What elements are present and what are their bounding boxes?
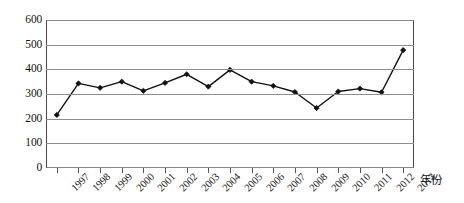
x-axis-tick-mark <box>252 168 253 173</box>
data-point-marker <box>249 79 254 84</box>
data-point-marker <box>162 80 167 85</box>
x-axis-tick-mark <box>78 168 79 173</box>
x-axis-tick-mark <box>295 168 296 173</box>
gridline <box>46 45 414 46</box>
x-axis-tick-mark <box>273 168 274 173</box>
y-axis-tick: 100 <box>0 137 42 149</box>
gridline <box>46 143 414 144</box>
data-point-marker <box>98 85 103 90</box>
x-axis-tick-mark <box>57 168 58 173</box>
gridline <box>46 94 414 95</box>
x-axis-tick-mark <box>338 168 339 173</box>
y-axis-tick-label: 500 <box>2 39 42 51</box>
data-point-marker <box>141 88 146 93</box>
x-axis-tick-mark <box>187 168 188 173</box>
y-axis-tick: 500 <box>0 39 42 51</box>
x-axis-tick-mark <box>317 168 318 173</box>
y-axis-tick: 300 <box>0 88 42 100</box>
series-line <box>57 50 403 115</box>
gridline <box>46 119 414 120</box>
x-axis-tick-mark <box>403 168 404 173</box>
y-axis-tick-label: 300 <box>2 88 42 100</box>
x-axis-tick-mark <box>360 168 361 173</box>
data-point-marker <box>119 79 124 84</box>
x-axis-tick-mark <box>230 168 231 173</box>
y-axis-tick-label: 600 <box>2 14 42 26</box>
gridline <box>46 69 414 70</box>
y-axis-tick: 600 <box>0 14 42 26</box>
y-axis-tick: 400 <box>0 63 42 75</box>
y-axis-tick-label: 400 <box>2 63 42 75</box>
line-chart: 0100200300400500600 19971998199920002001… <box>0 0 464 203</box>
y-axis-tick: 200 <box>0 113 42 125</box>
y-axis-tick-label: 100 <box>2 137 42 149</box>
data-point-marker <box>271 83 276 88</box>
y-axis-tick: 0 <box>0 162 42 174</box>
x-axis-tick-mark <box>143 168 144 173</box>
x-axis-tick-mark <box>100 168 101 173</box>
x-axis-tick-mark <box>165 168 166 173</box>
data-point-marker <box>401 47 406 52</box>
x-axis-title: 年份 <box>420 174 442 186</box>
x-axis-tick-mark <box>208 168 209 173</box>
y-axis-tick-label: 200 <box>2 113 42 125</box>
x-axis-tick-mark <box>122 168 123 173</box>
x-axis-tick-mark <box>382 168 383 173</box>
y-axis-tick-label: 0 <box>2 162 42 174</box>
data-point-marker <box>357 86 362 91</box>
